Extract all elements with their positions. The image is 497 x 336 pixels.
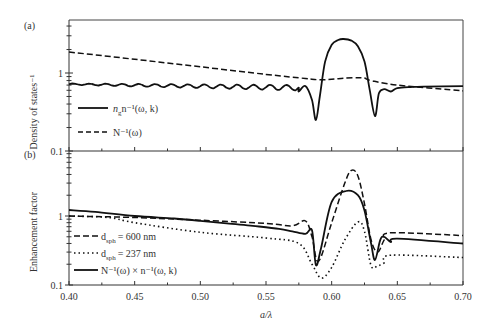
legend-a: ngn⁻¹(ω, k) N⁻¹(ω) (78, 103, 158, 139)
ytick-a-1: 1 (58, 68, 63, 79)
x-tick-label: 0.60 (323, 291, 341, 302)
x-tick-label: 0.40 (60, 291, 78, 302)
x-tick-label: 0.45 (126, 291, 144, 302)
legend-b-item-1: dsph= 237 nm (101, 248, 156, 262)
legend-b-item-2: N⁻¹(ω) × n⁻¹(ω, k) (101, 265, 177, 277)
panel-label-a: (a) (24, 20, 35, 32)
plot-series (69, 39, 463, 278)
legend-b-item-0: dsph= 600 nm (101, 231, 156, 245)
panel-a-frame (69, 20, 463, 285)
ylabel-a: Density of states⁻¹ (28, 75, 39, 150)
x-tick-label: 0.70 (454, 291, 472, 302)
ylabel-b: Enhancement factor (28, 191, 39, 272)
legend-b: dsph= 600 nm dsph= 237 nm N⁻¹(ω) × n⁻¹(ω… (74, 231, 177, 277)
x-tick-label: 0.55 (257, 291, 275, 302)
panel-label-b: (b) (24, 149, 36, 161)
x-tick-label: 0.50 (192, 291, 210, 302)
ytick-b-1: 1 (58, 211, 63, 222)
legend-a-item-0: ngn⁻¹(ω, k) (113, 103, 158, 117)
legend-a-item-1: N⁻¹(ω) (113, 127, 142, 139)
figure: 1 0.1 1 0.1 (a) (b) Density of states⁻¹ … (0, 0, 497, 336)
ytick-a-01: 0.1 (51, 146, 64, 157)
x-tick-labels: 0.400.450.500.550.600.650.70 (60, 291, 472, 302)
xlabel: a/λ (260, 309, 273, 320)
ytick-b-01: 0.1 (51, 280, 64, 291)
x-tick-label: 0.65 (389, 291, 407, 302)
axis-ticks (65, 26, 463, 285)
